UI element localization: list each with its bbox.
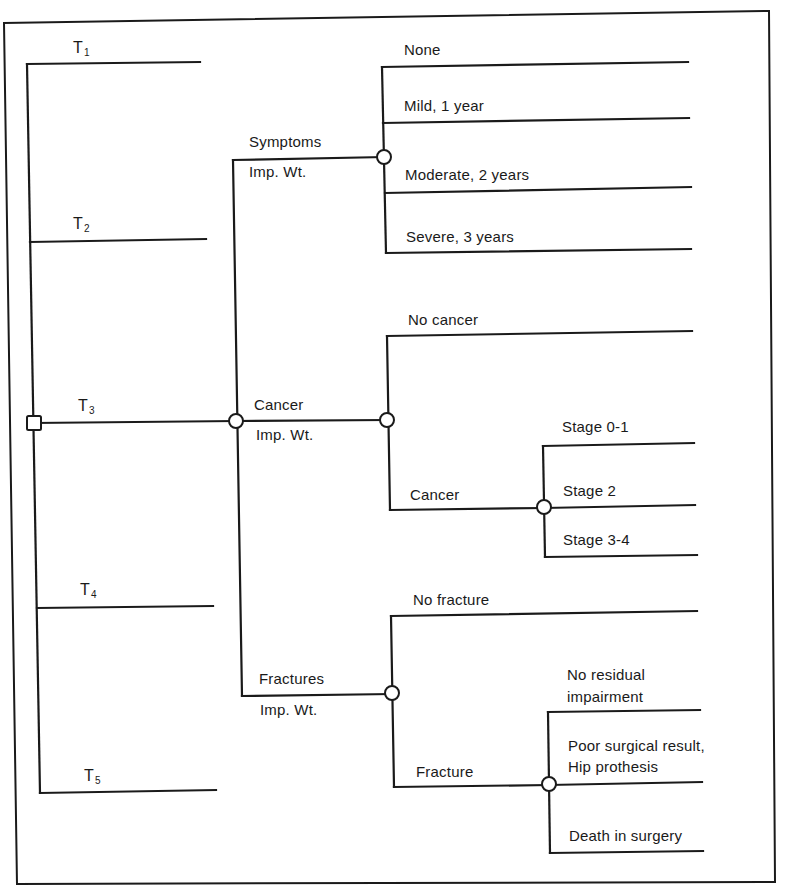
outcome-cancer [390, 508, 544, 510]
outcome-severe [386, 249, 691, 253]
weight-label-cancer: Imp. Wt. [256, 425, 313, 445]
outcome-label-stage-2: Stage 2 [563, 481, 616, 501]
branch-fractures [242, 694, 392, 696]
outcome-mild [383, 118, 689, 123]
treatment-label-t2: T2 [73, 214, 90, 239]
decision-node-icon [27, 416, 41, 430]
outcome-label-stage-3-4: Stage 3-4 [563, 530, 630, 550]
outcome-stage-3-4 [545, 555, 697, 557]
outcome-label-no-cancer: No cancer [408, 310, 478, 330]
attribute-label-fractures: Fractures [259, 669, 324, 689]
fractures-spine [391, 616, 394, 787]
weight-label-symptoms: Imp. Wt. [249, 162, 306, 182]
outcome-label-no-fracture: No fracture [413, 590, 489, 610]
outcome-label-death-in-surgery: Death in surgery [569, 826, 682, 846]
outcome-label-no-residual-line1: No residual [567, 665, 645, 685]
outcome-no-cancer [387, 331, 692, 336]
branch-t1 [27, 62, 200, 64]
chance-node-symptoms-icon [377, 150, 391, 164]
outcome-poor-surgical [549, 782, 702, 785]
outcome-moderate [385, 187, 691, 193]
chance-node-fracture-outcome-icon [542, 777, 556, 791]
outcome-no-residual [548, 710, 700, 712]
treatment-label-t3: T3 [78, 396, 95, 421]
chance-node-attributes-icon [229, 414, 243, 428]
outcome-label-severe: Severe, 3 years [406, 227, 514, 247]
outcome-none [382, 62, 688, 67]
attribute-label-symptoms: Symptoms [249, 132, 321, 152]
branch-t3 [33, 421, 236, 423]
outcome-fracture [394, 785, 549, 787]
attribute-label-cancer: Cancer [254, 395, 304, 415]
weight-label-fractures: Imp. Wt. [260, 700, 317, 720]
branch-t2 [30, 239, 206, 242]
branch-cancer [236, 420, 387, 421]
outcome-no-fracture [391, 611, 697, 616]
treatment-label-t1: T1 [73, 38, 90, 63]
outcome-label-fracture: Fracture [416, 762, 473, 782]
chance-node-cancer-icon [380, 413, 394, 427]
chance-node-stage-icon [537, 500, 551, 514]
outcome-stage-2 [544, 505, 695, 508]
outcome-label-cancer: Cancer [410, 485, 460, 505]
outcome-label-moderate: Moderate, 2 years [405, 165, 529, 185]
outcome-label-mild: Mild, 1 year [404, 96, 484, 116]
outcome-stage-0-1 [543, 443, 694, 446]
treatment-label-t5: T5 [84, 766, 101, 791]
outcome-label-stage-0-1: Stage 0-1 [562, 417, 629, 437]
branch-t5 [40, 790, 216, 793]
branch-symptoms [233, 157, 384, 160]
branch-t4 [37, 606, 213, 608]
outcome-label-none: None [404, 40, 441, 60]
outcome-label-no-residual-line2: impairment [567, 687, 643, 707]
outcome-label-poor-surgical-line1: Poor surgical result, [568, 736, 705, 756]
chance-node-fractures-icon [385, 686, 399, 700]
outcome-death-in-surgery [550, 851, 703, 853]
treatment-label-t4: T4 [80, 580, 97, 605]
outcome-label-poor-surgical-line2: Hip prothesis [568, 757, 658, 777]
